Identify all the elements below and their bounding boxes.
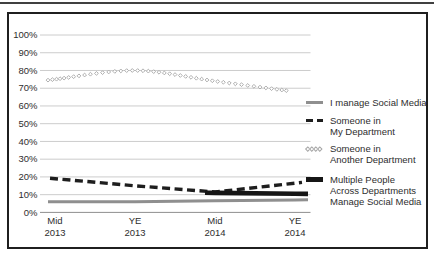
diamond-marker-glyph [317, 146, 322, 151]
legend-label: Someone in My Department [330, 115, 395, 137]
x-axis-labels: Mid2013YE2013Mid2014YE2014 [44, 215, 305, 238]
series-0 [48, 200, 308, 202]
legend-label: Someone in Another Department [330, 143, 416, 165]
svg-text:80%: 80% [18, 65, 38, 76]
legend-label: I manage Social Media [330, 97, 427, 108]
svg-text:2014: 2014 [284, 227, 305, 238]
svg-text:2013: 2013 [44, 227, 65, 238]
svg-text:60%: 60% [18, 100, 38, 111]
series-1 [50, 178, 302, 192]
series-2 [46, 69, 288, 93]
legend-line-glyph [306, 119, 323, 122]
svg-text:50%: 50% [18, 118, 38, 129]
figure-page: 0%10%20%30%40%50%60%70%80%90%100%Mid2013… [0, 0, 434, 261]
legend-line-glyph [306, 101, 323, 104]
svg-text:2013: 2013 [124, 227, 145, 238]
chart-legend: I manage Social Media Someone in My Depa… [306, 0, 432, 261]
y-axis-labels: 0%10%20%30%40%50%60%70%80%90%100% [13, 29, 38, 217]
svg-text:70%: 70% [18, 82, 38, 93]
svg-text:30%: 30% [18, 153, 38, 164]
legend-item-someone-in-another-department: Someone in Another Department [306, 143, 416, 165]
legend-swatch-solid-gray-line [306, 97, 326, 108]
svg-text:90%: 90% [18, 47, 38, 58]
legend-item-someone-in-my-department: Someone in My Department [306, 115, 395, 137]
svg-text:Mid: Mid [207, 215, 222, 226]
gridlines [40, 35, 311, 212]
svg-text:Mid: Mid [47, 215, 62, 226]
legend-swatch-thick-black-line [306, 174, 326, 185]
svg-text:100%: 100% [13, 29, 38, 40]
legend-line-glyph [306, 177, 323, 182]
legend-label: Multiple People Across Departments Manag… [330, 174, 421, 207]
legend-swatch-diamond-markers-line [306, 143, 326, 154]
svg-text:40%: 40% [18, 136, 38, 147]
svg-text:YE: YE [129, 215, 142, 226]
legend-item-i-manage-social-media: I manage Social Media [306, 97, 427, 108]
svg-text:10%: 10% [18, 189, 38, 200]
svg-text:20%: 20% [18, 171, 38, 182]
svg-text:YE: YE [289, 215, 302, 226]
legend-item-multiple-people-across-departments: Multiple People Across Departments Manag… [306, 174, 421, 207]
svg-text:0%: 0% [24, 207, 38, 218]
legend-swatch-dashed-black-line [306, 115, 326, 126]
svg-text:2014: 2014 [204, 227, 225, 238]
series-3 [205, 193, 308, 194]
